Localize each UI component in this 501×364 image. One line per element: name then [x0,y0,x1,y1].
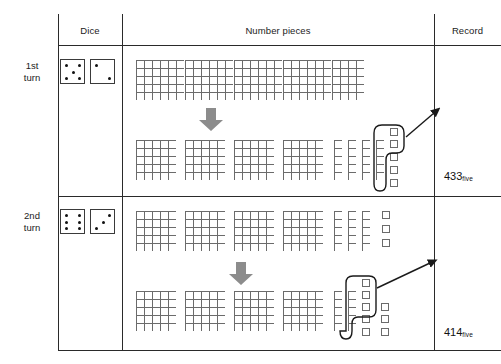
unit-piece-circled [362,279,370,287]
rod-piece [334,211,342,251]
flat-piece [283,291,323,331]
unit-piece [382,239,390,247]
transform-down-arrow-1 [198,108,224,132]
record-subscript-1: five [462,175,473,182]
regroup-pointer-arrow-2 [377,263,430,288]
vertical-rule-record-left [434,14,435,350]
vertical-rule-dice-left [58,14,59,350]
record-value-1: 433five [444,170,473,182]
unit-piece-circled [362,315,370,323]
rod-piece [334,291,342,331]
unit-piece [381,328,389,336]
turn-label-2-line2: turn [8,222,56,234]
horizontal-rule-header [58,45,501,46]
unit-piece-circled [362,303,370,311]
turn-label-2-line1: 2nd [8,210,56,222]
column-header-record: Record [434,25,501,36]
strip-block [283,60,331,100]
flat-piece [283,140,323,180]
turn-label-2: 2nd turn [8,210,56,233]
turn-label-1: 1st turn [8,60,56,83]
regroup-loop-2 [340,276,376,339]
rod-piece-circled [376,140,384,180]
rod-piece [362,211,370,251]
dice-2-right [90,209,115,234]
flat-piece [136,211,176,251]
horizontal-rule-bottom [58,350,501,351]
unit-piece-circled [390,140,398,148]
strip-block [136,60,184,100]
unit-piece [382,225,390,233]
horizontal-rule-row1 [58,196,501,197]
rod-piece [348,140,356,180]
worksheet: Dice Number pieces Record 1st turn 433fi… [0,0,501,364]
record-value-2: 414five [444,326,473,338]
regroup-pointer-arrow-1 [406,113,434,137]
flat-piece [234,291,274,331]
record-subscript-2: five [462,331,473,338]
turn-label-1-line1: 1st [8,60,56,72]
rod-piece [334,140,342,180]
unit-piece [390,153,398,161]
unit-piece [390,166,398,174]
unit-piece-circled [362,291,370,299]
column-header-dice: Dice [58,25,122,36]
dice-1-left [60,59,85,84]
rod-piece [348,211,356,251]
flat-piece [234,140,274,180]
transform-down-arrow-2 [228,262,254,286]
unit-piece [390,179,398,187]
unit-piece-circled [390,128,398,136]
unit-piece [382,211,390,219]
vertical-rule-pieces-left [122,14,123,350]
turn-label-1-line2: turn [8,72,56,84]
unit-piece [381,315,389,323]
column-header-number-pieces: Number pieces [122,25,434,36]
record-number-1: 433 [444,170,462,182]
flat-piece [185,140,225,180]
unit-piece [362,328,370,336]
flat-piece [185,211,225,251]
dice-1-right [90,59,115,84]
flat-piece [136,291,176,331]
flat-piece [234,211,274,251]
flat-piece [283,211,323,251]
record-number-2: 414 [444,326,462,338]
strip-block [332,60,364,100]
strip-block [234,60,282,100]
dice-2-left [60,209,85,234]
strip-block [185,60,233,100]
flat-piece [185,291,225,331]
rod-piece-circled [348,291,356,331]
rod-piece [362,140,370,180]
unit-piece [381,303,389,311]
flat-piece [136,140,176,180]
